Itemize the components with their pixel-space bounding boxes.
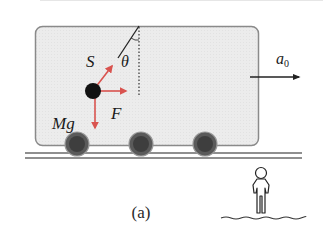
wheel-right [193, 132, 217, 156]
tension-label: S [86, 52, 95, 71]
pendulum-bob [85, 83, 101, 99]
wheel-middle [129, 132, 153, 156]
force-label: F [110, 104, 122, 123]
physics-diagram: θ S F Mg a0 (a) [0, 0, 323, 242]
wheel-left [65, 132, 89, 156]
weight-label: Mg [51, 114, 75, 133]
observer-person-icon [253, 168, 269, 214]
acceleration-label: a0 [276, 50, 289, 69]
angle-label: θ [121, 53, 129, 70]
figure-caption: (a) [132, 203, 151, 222]
ground-line [221, 217, 306, 219]
